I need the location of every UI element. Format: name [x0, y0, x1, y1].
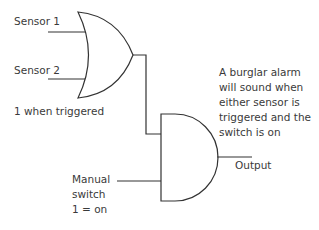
description-line: switch is on	[219, 125, 311, 140]
or-gate	[78, 12, 133, 98]
description-line: triggered and the	[219, 110, 311, 125]
sensor2-label: Sensor 2	[14, 63, 60, 78]
description-line: either sensor is	[219, 95, 311, 110]
description-text: A burglar alarm will sound when either s…	[219, 65, 311, 140]
output-label: Output	[235, 158, 271, 173]
switch-label-line1: Manual	[72, 172, 110, 187]
sensors-note-label: 1 when triggered	[14, 104, 104, 119]
description-line: will sound when	[219, 80, 311, 95]
or-to-and-wire	[133, 55, 161, 134]
switch-label-line2: switch	[72, 187, 106, 202]
switch-label-line3: 1 = on	[72, 202, 107, 217]
and-gate	[161, 114, 218, 201]
sensor1-label: Sensor 1	[14, 14, 60, 29]
description-line: A burglar alarm	[219, 65, 311, 80]
